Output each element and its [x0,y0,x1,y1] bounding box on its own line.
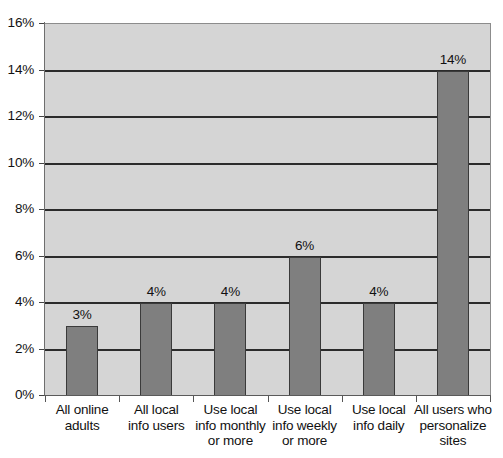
y-axis-tick-label: 10% [8,156,34,170]
bar-value-label: 4% [369,285,388,299]
bar [140,303,172,396]
bar [214,303,246,396]
y-axis-tick-label: 8% [15,202,34,216]
gridline [45,70,490,72]
x-axis-category-line: All users who [407,402,499,418]
gridline [45,163,490,165]
y-axis-tick-label: 14% [8,63,34,77]
y-axis-tick-label: 12% [8,109,34,123]
bar [437,71,469,397]
bar-value-label: 6% [295,239,314,253]
x-axis-tick-mark [490,396,491,402]
x-axis-tick-mark [119,396,120,402]
bar-value-label: 4% [221,285,240,299]
bar [289,257,321,397]
x-axis-category-line: or more [259,433,351,449]
gridline [45,256,490,258]
plot-area [45,23,491,396]
gridline [45,116,490,118]
x-axis-tick-mark [193,396,194,402]
bar-value-label: 4% [147,285,166,299]
gridline [45,209,490,211]
x-axis-category-line: sites [407,433,499,449]
gridline [45,302,490,304]
y-axis: 0%2%4%6%8%10%12%14%16% [0,0,43,458]
y-axis-tick-label: 6% [15,249,34,263]
x-axis-category-line: personalize [407,418,499,434]
bar [66,326,98,396]
y-axis-tick-label: 0% [15,388,34,402]
x-axis-category-label: All users whopersonalizesites [407,402,499,449]
bar-chart: 0%2%4%6%8%10%12%14%16% All onlineadultsA… [0,0,503,458]
bar-value-label: 14% [440,53,466,67]
y-axis-tick-label: 4% [15,295,34,309]
y-axis-tick-label: 2% [15,342,34,356]
gridline [45,349,490,351]
x-axis-tick-mark [416,396,417,402]
x-axis-tick-mark [342,396,343,402]
x-axis-tick-mark [45,396,46,402]
y-axis-tick-label: 16% [8,16,34,30]
bar-value-label: 3% [73,308,92,322]
x-axis-tick-mark [268,396,269,402]
bar [363,303,395,396]
